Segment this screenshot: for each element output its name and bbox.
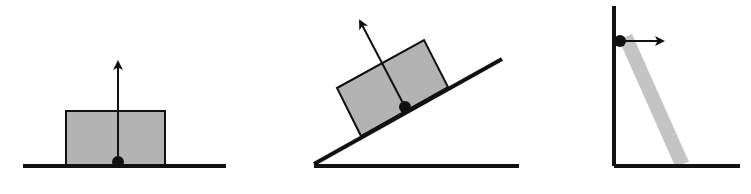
panel-rod-against-wall xyxy=(614,6,740,166)
diagram-svg xyxy=(0,0,751,194)
contact-point xyxy=(614,35,626,47)
physics-force-diagram xyxy=(0,0,751,194)
contact-point xyxy=(399,101,411,113)
contact-point xyxy=(112,156,124,168)
rod xyxy=(619,34,689,166)
panel-block-on-floor xyxy=(23,62,226,168)
panel-block-on-incline xyxy=(314,21,519,166)
